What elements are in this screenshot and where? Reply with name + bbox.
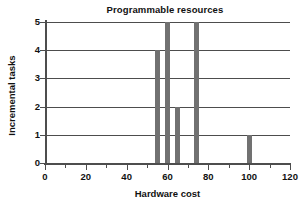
bar (247, 135, 252, 163)
x-tick-label: 40 (121, 171, 132, 182)
x-tick-minor (147, 165, 148, 168)
y-tick-mark (40, 50, 45, 51)
x-tick-major (168, 165, 169, 170)
y-tick-mark (40, 107, 45, 108)
bar (175, 107, 179, 163)
x-tick-minor (106, 165, 107, 168)
x-tick-label: 100 (241, 171, 257, 182)
y-tick-mark (40, 163, 45, 164)
x-tick-major (127, 165, 128, 170)
y-tick-label: 1 (24, 130, 40, 140)
y-tick-mark (40, 135, 45, 136)
y-tick-mark (40, 22, 45, 23)
y-tick-label: 0 (24, 158, 40, 168)
bar (155, 50, 159, 163)
x-tick-label: 120 (282, 171, 298, 182)
y-tick-label: 2 (24, 102, 40, 112)
x-tick-minor (65, 165, 66, 168)
plot-area (45, 22, 290, 163)
y-axis-title: Incremental tasks (6, 31, 17, 161)
x-tick-label: 20 (81, 171, 92, 182)
x-tick-label: 60 (162, 171, 173, 182)
x-tick-major (290, 165, 291, 170)
y-tick-label: 5 (24, 17, 40, 27)
y-tick-label: 3 (24, 73, 40, 83)
bar (165, 22, 169, 163)
x-tick-major (86, 165, 87, 170)
chart-figure: Programmable resources 012345 0204060801… (0, 0, 308, 208)
x-tick-label: 0 (42, 171, 47, 182)
x-axis-title: Hardware cost (45, 188, 290, 199)
x-tick-minor (270, 165, 271, 168)
y-tick-mark (40, 78, 45, 79)
x-tick-minor (229, 165, 230, 168)
chart-title: Programmable resources (0, 4, 308, 15)
x-tick-label: 80 (203, 171, 214, 182)
x-tick-major (249, 165, 250, 170)
x-tick-major (208, 165, 209, 170)
y-tick-label: 4 (24, 45, 40, 55)
x-tick-minor (188, 165, 189, 168)
bar (194, 22, 199, 163)
y-axis-tick-labels: 012345 (22, 22, 40, 163)
y-axis-spine (45, 20, 47, 165)
x-tick-major (45, 165, 46, 170)
